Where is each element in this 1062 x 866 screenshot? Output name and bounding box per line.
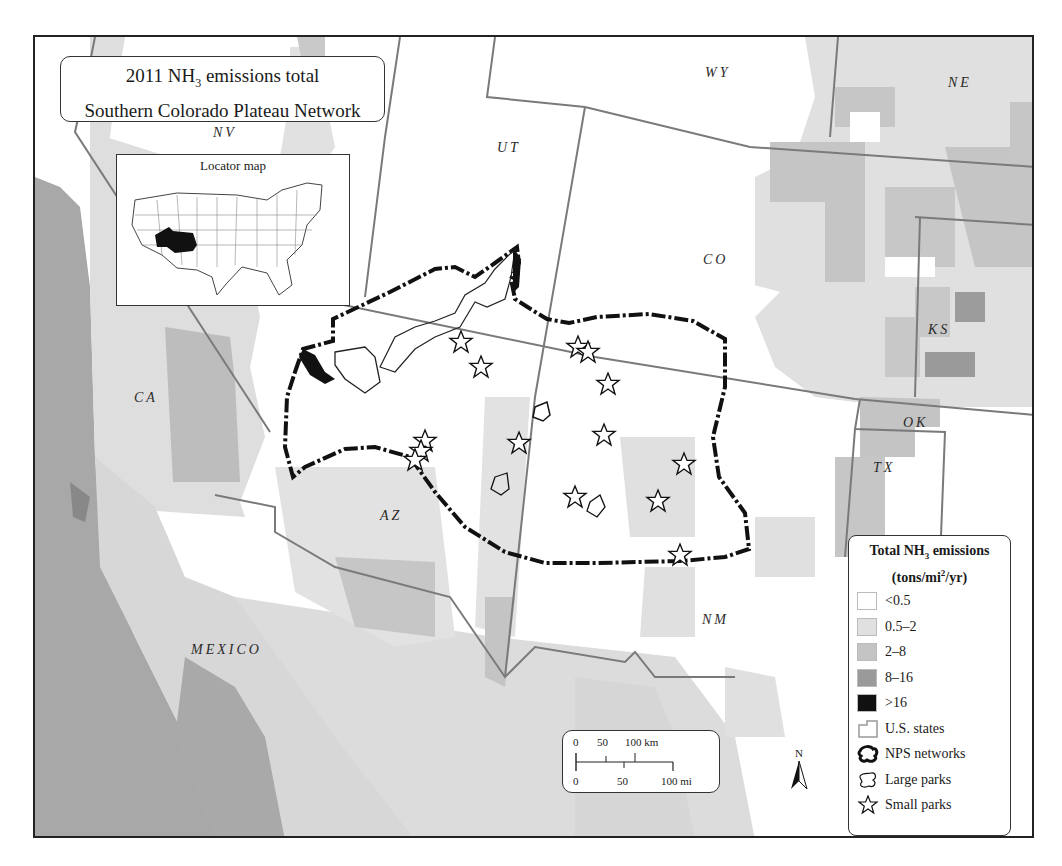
north-arrow-icon <box>787 759 811 791</box>
state-label-co: CO <box>703 252 728 268</box>
scale-mi-100: 100 mi <box>661 775 692 787</box>
legend-class-0-5-2: 0.5–2 <box>849 614 1010 640</box>
legend-large-parks: Large parks <box>849 767 1010 793</box>
large-park-outline-icon <box>857 770 879 790</box>
state-label-nv: NV <box>213 125 237 141</box>
swatch-8-16 <box>857 669 877 687</box>
map-title: 2011 NH3 emissions total Southern Colora… <box>60 56 385 122</box>
network-boundary-icon <box>857 744 879 764</box>
north-label: N <box>787 747 811 759</box>
locator-us-outline <box>117 155 349 305</box>
swatch-gt-16 <box>857 694 877 712</box>
state-label-wy: WY <box>705 65 730 81</box>
state-outline-icon <box>857 719 879 739</box>
state-label-nm: NM <box>702 612 729 628</box>
map-frame: NV UT WY NE CO KS OK TX CA AZ NM MEXICO … <box>33 35 1034 838</box>
state-label-az: AZ <box>380 508 402 524</box>
legend-title: Total NH3 emissions (tons/mi2/yr) <box>849 542 1010 585</box>
scale-bar: 0 50 100 km 0 50 100 mi <box>562 730 720 793</box>
locator-map: Locator map <box>116 154 350 306</box>
star-icon <box>857 795 879 815</box>
state-label-ut: UT <box>497 140 521 156</box>
title-line-2: Southern Colorado Plateau Network <box>61 97 384 124</box>
legend-small-parks: Small parks <box>849 792 1010 818</box>
small-park-star-icon <box>564 486 586 507</box>
small-park-star-icon <box>470 356 492 377</box>
small-park-star-icon <box>593 424 615 445</box>
legend-class-gt-16: >16 <box>849 690 1010 716</box>
state-label-ne: NE <box>948 75 972 91</box>
scale-mi-0: 0 <box>573 775 579 787</box>
title-line-1: 2011 NH3 emissions total <box>61 62 384 97</box>
swatch-lt-0-5 <box>857 592 877 610</box>
state-label-tx: TX <box>873 460 895 476</box>
state-label-ks: KS <box>928 322 950 338</box>
legend-us-states: U.S. states <box>849 716 1010 742</box>
north-arrow: N <box>787 747 811 797</box>
state-label-mexico: MEXICO <box>191 642 262 658</box>
state-label-ok: OK <box>903 415 928 431</box>
legend: Total NH3 emissions (tons/mi2/yr) <0.5 0… <box>848 535 1011 836</box>
swatch-0-5-2 <box>857 618 877 636</box>
state-label-ca: CA <box>134 390 158 406</box>
small-park-star-icon <box>597 373 619 394</box>
legend-class-8-16: 8–16 <box>849 665 1010 691</box>
legend-nps-networks: NPS networks <box>849 741 1010 767</box>
scale-bar-ruler <box>563 731 721 794</box>
swatch-2-8 <box>857 643 877 661</box>
legend-class-lt-0-5: <0.5 <box>849 588 1010 614</box>
small-park-star-icon <box>450 331 472 352</box>
legend-class-2-8: 2–8 <box>849 639 1010 665</box>
scale-mi-50: 50 <box>617 775 628 787</box>
